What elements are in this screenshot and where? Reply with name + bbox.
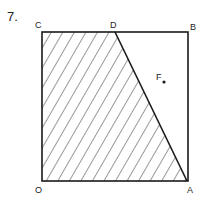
- shaded-region: [42, 32, 187, 181]
- label-F: F: [156, 72, 162, 82]
- problem-number: 7.: [7, 9, 18, 24]
- label-D: D: [110, 20, 117, 30]
- point-F-dot: [162, 80, 165, 83]
- label-O: O: [35, 185, 42, 195]
- geometry-diagram: 7. C D B F O A: [0, 0, 210, 201]
- label-C: C: [35, 20, 42, 30]
- label-A: A: [187, 185, 193, 195]
- label-B: B: [190, 22, 196, 32]
